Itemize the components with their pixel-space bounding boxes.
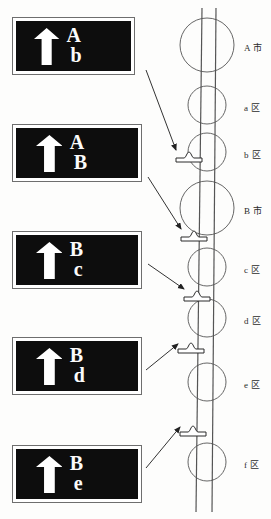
node-d-qu-circle — [188, 299, 226, 337]
node-e-qu-circle — [188, 363, 226, 401]
node-a-qu-circle — [188, 86, 226, 124]
road-map — [150, 0, 271, 519]
map-label-b-shi: B 市 — [244, 204, 263, 217]
road-sign-marker-3 — [184, 291, 210, 301]
map-label-d-qu: d 区 — [244, 314, 261, 327]
map-label-a-shi: A 市 — [244, 41, 263, 54]
node-b-qu-circle — [188, 133, 226, 171]
map-label-c-qu: c 区 — [244, 263, 261, 276]
node-c-qu-circle — [188, 248, 226, 286]
map-label-f-qu: f 区 — [244, 458, 260, 471]
road-sign-marker-1 — [176, 152, 202, 162]
road-right-edge — [212, 8, 216, 512]
road-sign-marker-2 — [181, 231, 207, 241]
map-label-e-qu: e 区 — [244, 378, 261, 391]
road-sign-marker-5 — [180, 426, 206, 436]
map-label-b-qu: b 区 — [244, 148, 261, 161]
road-sign-guidance-diagram: A b A B B c — [0, 0, 271, 519]
map-label-a-qu: a 区 — [244, 101, 261, 114]
road-sign-marker-4 — [178, 343, 204, 353]
node-b-shi-circle — [180, 181, 234, 235]
node-f-qu-circle — [188, 443, 226, 481]
node-a-shi-circle — [180, 18, 234, 72]
